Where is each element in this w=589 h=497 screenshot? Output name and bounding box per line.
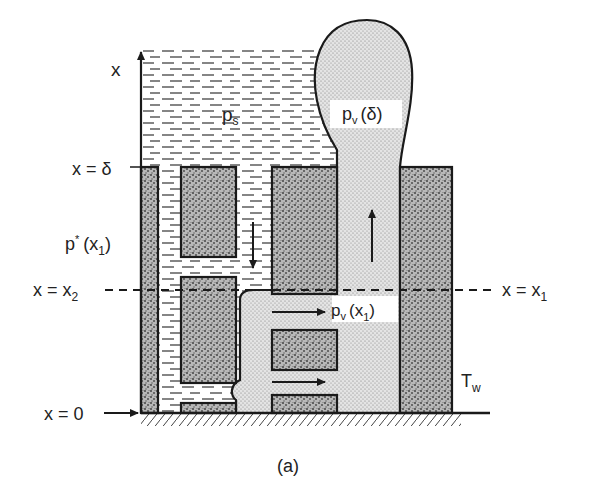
svg-text:x = x1: x = x1 [502,280,548,304]
label-t-w: Tw [461,371,481,395]
label-x-x1: x = x1 [502,280,548,304]
svg-text:Tw: Tw [461,371,481,395]
svg-text:pv(δ): pv(δ) [342,104,383,126]
porous-wick-diagram: x x = δ p*(x1) x = x2 x = 0 x = x1 ps pv… [0,0,589,497]
label-p-star: p*(x1) [65,233,111,258]
label-x-x2: x = x2 [33,280,79,304]
figure-caption: (a) [277,456,299,476]
svg-text:p*(x1): p*(x1) [65,233,111,258]
axis-label-x: x [111,59,121,80]
svg-text:pv(x1): pv(x1) [331,301,375,323]
bottom-left-block [181,403,236,413]
upper-left-block [181,167,236,257]
middle-column-block [272,167,337,294]
label-x-zero: x = 0 [44,404,84,424]
ground [141,413,490,426]
label-p-v-delta: pv(δ) [342,104,383,126]
label-p-v-x1: pv(x1) [331,301,375,323]
lower-left-block [181,277,236,383]
svg-text:x = x2: x = x2 [33,280,79,304]
label-x-delta: x = δ [72,159,112,179]
middle-small-block [272,330,337,370]
bottom-middle-block [272,395,337,413]
